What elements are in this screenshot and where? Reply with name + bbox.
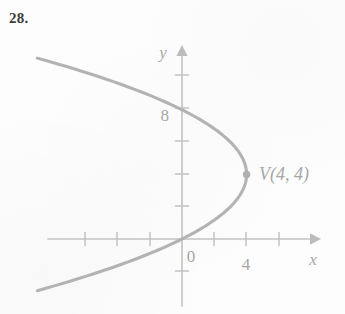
vertex-label: V(4, 4) <box>259 164 309 185</box>
figure-container: 28. <box>0 0 345 314</box>
y-tick-label-8: 8 <box>161 106 170 125</box>
x-axis-arrowhead <box>310 233 321 245</box>
x-axis-label: x <box>308 250 317 269</box>
vertex-point-marker <box>243 171 250 178</box>
origin-label: 0 <box>187 247 196 266</box>
x-tick-label-4: 4 <box>242 255 251 274</box>
y-axis-arrowhead <box>176 45 187 56</box>
parabola-plot: y x 8 0 4 V(4, 4) <box>0 0 345 314</box>
y-axis-label: y <box>157 43 167 62</box>
parabola-curve <box>37 58 246 291</box>
